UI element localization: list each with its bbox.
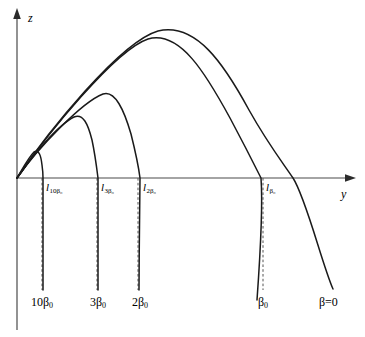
tick-label-l-2beta0: l2β₀ [143,182,156,195]
axis-z-arrowhead [13,8,21,19]
curve-label-3beta0-sub: 0 [102,301,106,310]
dashed-markers-group [42,178,263,290]
curve-label-2beta0-text: 2β [132,295,144,309]
figure-container: z y l10β₀ l3β₀ l2β₀ lβ₀ 10β0 3β0 2β0 β0 … [0,0,365,337]
tick-sub-l-3beta0: 3β₀ [105,187,115,195]
trajectory-plot [0,0,365,337]
tick-sub-l-2beta0: 2β₀ [147,187,157,195]
curve-label-2beta0-sub: 0 [144,301,148,310]
tick-label-l-3beta0: l3β₀ [101,182,114,195]
curve-label-beta0: β0 [258,296,268,310]
curve-2beta0 [17,93,140,290]
curve-label-2beta0: 2β0 [132,296,148,310]
curve-label-10beta0-text: 10β [31,295,49,309]
tick-sub-l-beta0: β₀ [270,187,276,195]
curve-label-beta-eq-0-text: β=0 [319,295,338,309]
curve-label-beta0-sub: 0 [264,301,268,310]
axis-y-arrowhead [345,174,356,182]
axis-y-label: y [341,188,346,200]
tick-label-l-10beta0: l10β₀ [46,182,63,195]
curve-label-10beta0-sub: 0 [49,301,53,310]
axis-z-label: z [28,12,33,24]
axis-z [13,8,21,330]
curve-label-beta-eq-0: β=0 [319,296,338,308]
curve-label-3beta0: 3β0 [90,296,106,310]
curve-label-10beta0: 10β0 [31,296,53,310]
tick-sub-l-10beta0: 10β₀ [50,187,63,195]
tick-label-l-beta0: lβ₀ [266,182,276,195]
curves-group [17,30,333,300]
curve-beta-eq-0 [17,30,333,289]
curve-3beta0 [17,116,98,290]
curve-label-3beta0-text: 3β [90,295,102,309]
axis-y [17,174,356,182]
